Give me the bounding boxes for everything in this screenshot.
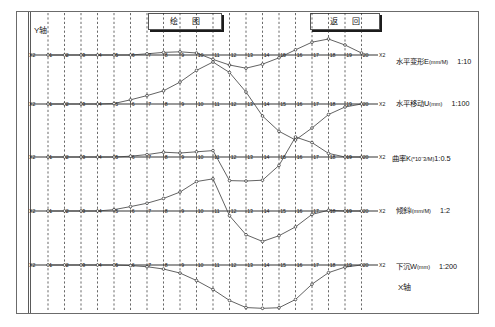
legend-item-horizontal-movement: 水平移动U(mm)1:100 [396, 99, 469, 109]
legend-name-0: 水平变形E [396, 57, 429, 66]
legend-item-horizontal-deformation: 水平变形E(mm/M)1:10 [396, 57, 471, 67]
legend-unit-3: (mm/M) [412, 208, 431, 214]
legend-unit-4: (mm) [417, 264, 430, 270]
legend-scale-1: 1:100 [451, 99, 469, 108]
draw-button[interactable]: 绘 图 [148, 13, 222, 30]
legend-unit-2: (*10ˉ3/M) [411, 156, 434, 162]
back-button[interactable]: 返 回 [310, 13, 380, 30]
legend-item-subsidence: 下沉W(mm)1:200 [396, 262, 457, 272]
legend-name-1: 水平移动U [396, 99, 429, 108]
legend-name-2: 曲率K [392, 154, 411, 163]
legend-scale-0: 1:10 [457, 57, 471, 66]
legend-name-4: 下沉W [396, 262, 417, 271]
drawing-window: Y轴 绘 图 返 回 12345678910111213141516171819… [0, 0, 495, 327]
y-axis-label: Y轴 [34, 24, 47, 35]
x-axis-label: X轴 [398, 281, 411, 292]
legend-scale-3: 1:2 [440, 206, 450, 215]
legend-item-curvature: 曲率K(*10ˉ3/M)1:0.5 [392, 154, 451, 164]
legend-name-3: 倾斜i [396, 206, 412, 215]
legend-scale-4: 1:200 [439, 262, 457, 271]
legend-item-tilt: 倾斜i(mm/M)1:2 [396, 206, 450, 216]
legend-unit-1: (mm) [429, 101, 442, 107]
legend-unit-0: (mm/M) [429, 59, 448, 65]
y-axis-line [28, 12, 31, 313]
legend-scale-2: 1:0.5 [434, 154, 450, 163]
